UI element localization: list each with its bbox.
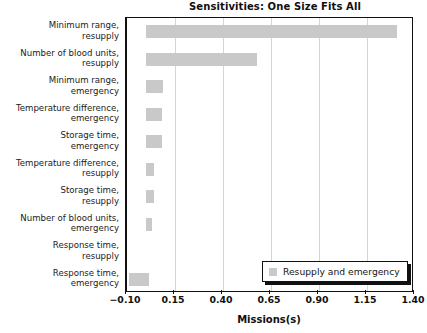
bar-row (127, 190, 412, 203)
x-tick-label: 1.40 (401, 294, 424, 305)
y-axis-label-line1: Minimum range, (0, 75, 119, 85)
y-axis-label-line2: resupply (0, 251, 119, 261)
bar-row (127, 25, 412, 38)
bar[interactable] (146, 135, 162, 148)
bar-row (127, 245, 412, 258)
y-axis-label-line2: emergency (0, 141, 119, 151)
legend-label: Resupply and emergency (283, 266, 400, 277)
y-axis-label-line2: emergency (0, 223, 119, 233)
plot-area (125, 17, 413, 292)
y-axis-labels: Minimum range,resupplyNumber of blood un… (0, 17, 122, 292)
bar-row (127, 53, 412, 66)
y-axis-label-line2: resupply (0, 168, 119, 178)
y-axis-label-line2: resupply (0, 58, 119, 68)
bar[interactable] (146, 218, 152, 231)
y-axis-label: Response time,emergency (0, 268, 119, 288)
y-axis-label-line1: Response time, (0, 240, 119, 250)
chart-legend[interactable]: Resupply and emergency (262, 261, 408, 282)
y-axis-label-line1: Number of blood units, (0, 213, 119, 223)
bar-row (127, 163, 412, 176)
x-axis-title: Missions(s) (125, 314, 413, 325)
y-axis-label-line1: Minimum range, (0, 20, 119, 30)
bar-row (127, 80, 412, 93)
bar[interactable] (146, 190, 154, 203)
bars-layer (127, 18, 412, 291)
y-axis-label-line2: emergency (0, 86, 119, 96)
x-axis-ticks: −0.100.150.400.650.901.151.40 (125, 294, 413, 308)
y-axis-label-line1: Response time, (0, 268, 119, 278)
x-tick-label: 0.40 (209, 294, 232, 305)
y-axis-label-line2: emergency (0, 113, 119, 123)
y-axis-label-line1: Temperature difference, (0, 103, 119, 113)
bar[interactable] (146, 80, 163, 93)
y-axis-label: Minimum range,emergency (0, 75, 119, 95)
y-axis-label-line2: emergency (0, 278, 119, 288)
y-axis-label: Storage time,emergency (0, 130, 119, 150)
y-axis-label-line1: Number of blood units, (0, 48, 119, 58)
x-tick-label: 1.15 (353, 294, 376, 305)
x-tick-label: 0.15 (161, 294, 184, 305)
x-tick-label: 0.65 (257, 294, 280, 305)
y-axis-label: Number of blood units,emergency (0, 213, 119, 233)
y-axis-label: Number of blood units,resupply (0, 48, 119, 68)
y-axis-label-line2: resupply (0, 196, 119, 206)
x-tick-label: −0.10 (110, 294, 141, 305)
y-axis-label-line1: Storage time, (0, 185, 119, 195)
y-axis-label: Storage time,resupply (0, 185, 119, 205)
y-axis-label-line1: Temperature difference, (0, 158, 119, 168)
bar-row (127, 135, 412, 148)
bar[interactable] (146, 163, 154, 176)
bar-row (127, 108, 412, 121)
y-axis-label-line2: resupply (0, 31, 119, 41)
bar[interactable] (146, 108, 162, 121)
y-axis-label: Temperature difference,emergency (0, 103, 119, 123)
bar-row (127, 218, 412, 231)
legend-swatch-resupply-and-emergency (269, 268, 277, 276)
bar[interactable] (146, 53, 256, 66)
y-axis-label: Temperature difference,resupply (0, 158, 119, 178)
y-axis-label-line1: Storage time, (0, 130, 119, 140)
bar[interactable] (129, 273, 149, 286)
x-tick-label: 0.90 (305, 294, 328, 305)
bar[interactable] (146, 25, 397, 38)
chart-figure: Sensitivities: One Size Fits All Minimum… (0, 0, 427, 333)
chart-title: Sensitivities: One Size Fits All (125, 1, 425, 12)
y-axis-label: Response time,resupply (0, 240, 119, 260)
y-axis-label: Minimum range,resupply (0, 20, 119, 40)
